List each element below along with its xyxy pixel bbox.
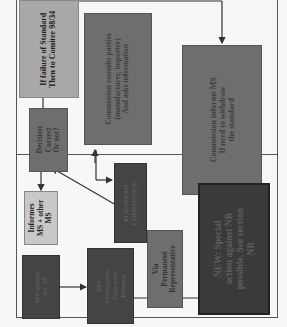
- flowchart-diagram: If failure of Standard Then to Comitee 9…: [0, 0, 287, 327]
- node-european-commission: EUROPEAN COMMISSION: [114, 163, 147, 243]
- node-ms-applies: MS applies Art. 18: [22, 255, 60, 319]
- node-decision: Decision Correct Or not?: [29, 108, 68, 172]
- node-ms-notification: MS Notification Falls with Reasons: [87, 248, 134, 324]
- node-permanent-representative: Via Permanent Representative: [147, 230, 183, 308]
- node-commission-consults: Commission consults parties (manufacture…: [84, 13, 152, 145]
- node-new-special-action: NEW: Special action against NB possible.…: [198, 183, 270, 315]
- node-informs-ms: Informes MS + other MS: [24, 191, 58, 245]
- node-failure-standard: If failure of Standard Then to Comitee 9…: [19, 0, 79, 98]
- node-commission-informs: Commission informs MS If need to withdra…: [182, 45, 262, 195]
